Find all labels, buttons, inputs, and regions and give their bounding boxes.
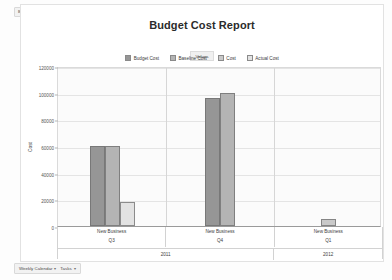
y-axis-title: Cost (28, 142, 33, 152)
legend-item[interactable]: Baseline Cost (170, 55, 207, 61)
legend-item[interactable]: Budget Cost (125, 55, 159, 61)
status-bar: Weekly Calendar▾Tasks▾ (14, 263, 81, 274)
legend-swatch-icon (125, 55, 131, 61)
bar-series (58, 68, 380, 226)
category-quarter: Q1 (275, 238, 382, 243)
legend-item-label: Budget Cost (134, 56, 159, 61)
legend-swatch-icon (247, 55, 253, 61)
legend-swatch-icon (218, 55, 224, 61)
category-quarter: Q4 (166, 238, 273, 243)
chevron-down-icon[interactable]: ▾ (54, 267, 56, 271)
y-axis-tick-label: 20000 (41, 199, 54, 204)
y-axis-tick-label: 100000 (39, 92, 54, 97)
x-axis-categories: New BusinessQ3New BusinessQ4New Business… (57, 227, 383, 259)
legend-item[interactable]: Cost (218, 55, 236, 61)
chart-legend: Budget CostBaseline CostCostActual Cost (21, 55, 383, 61)
category-name: New Business (166, 229, 273, 234)
budget-cost-report-window: Budget CostBaseline CostCostActual Cost … (0, 0, 392, 280)
category-cell: New BusinessQ4 (166, 227, 274, 247)
y-axis-tick-label: 120000 (39, 66, 54, 71)
plot-canvas: 020000400006000080000100000120000 (57, 67, 381, 227)
bar[interactable] (120, 202, 135, 226)
y-axis-tick-label: 60000 (41, 146, 54, 151)
legend-item-label: Actual Cost (255, 56, 279, 61)
category-name: New Business (275, 229, 382, 234)
report-panel: Budget Cost Report Values Budget CostBas… (20, 4, 384, 262)
bar[interactable] (220, 93, 235, 226)
category-cell: New BusinessQ1 (275, 227, 382, 247)
legend-item-label: Baseline Cost (179, 56, 207, 61)
chevron-down-icon[interactable]: ▾ (74, 267, 76, 271)
status-bar-item[interactable]: Weekly Calendar▾ (19, 266, 56, 271)
page-title: Budget Cost Report (21, 19, 383, 31)
bar[interactable] (105, 146, 120, 226)
year-label: 2011 (58, 249, 274, 260)
status-bar-item-label: Weekly Calendar (19, 266, 52, 271)
y-axis-tick-label: 80000 (41, 119, 54, 124)
year-label: 2012 (274, 249, 382, 260)
y-axis-tick-label: 0 (51, 226, 54, 231)
bar[interactable] (90, 146, 105, 226)
category-quarter: Q3 (58, 238, 165, 243)
y-axis-tick-label: 40000 (41, 172, 54, 177)
bar[interactable] (205, 98, 220, 226)
status-bar-item-label: Tasks (60, 266, 71, 271)
legend-item[interactable]: Actual Cost (247, 55, 279, 61)
plot-area: Cost 020000400006000080000100000120000 (57, 67, 381, 227)
bar[interactable] (321, 219, 336, 226)
category-cell: New BusinessQ3 (58, 227, 166, 247)
category-name: New Business (58, 229, 165, 234)
legend-item-label: Cost (226, 56, 235, 61)
legend-swatch-icon (170, 55, 176, 61)
status-bar-item[interactable]: Tasks▾ (60, 266, 75, 271)
